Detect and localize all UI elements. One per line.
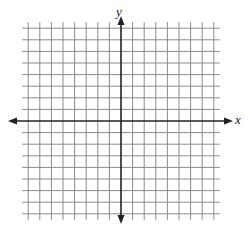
y-axis-label: y bbox=[116, 5, 122, 18]
y-axis-down-arrow-icon bbox=[118, 215, 125, 224]
coordinate-plane: y x bbox=[0, 0, 248, 233]
y-axis bbox=[118, 16, 125, 224]
x-axis-right-arrow-icon bbox=[224, 118, 233, 125]
x-axis-left-arrow-icon bbox=[8, 118, 17, 125]
coordinate-grid bbox=[0, 0, 248, 233]
x-axis-label: x bbox=[235, 113, 241, 126]
